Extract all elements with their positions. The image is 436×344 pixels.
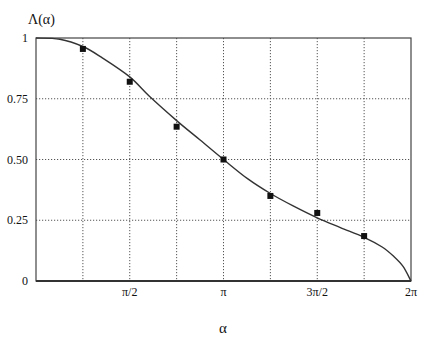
data-point-square (127, 79, 133, 85)
y-tick-labels: 00.250.500.751 (7, 31, 28, 288)
y-tick-label: 1 (22, 31, 28, 45)
chart: 00.250.500.751 π/2π3π/22π Λ(α) α (0, 0, 436, 344)
y-tick-label: 0.50 (7, 153, 28, 167)
y-tick-label: 0 (22, 274, 28, 288)
x-tick-labels: π/2π3π/22π (122, 285, 417, 299)
data-point-square (221, 157, 227, 163)
data-point-square (80, 46, 86, 52)
data-point-square (314, 210, 320, 216)
x-axis-label: α (219, 320, 227, 336)
data-point-square (361, 233, 367, 239)
x-tick-label: π/2 (122, 285, 137, 299)
y-axis-label: Λ(α) (28, 12, 55, 28)
data-point-square (267, 193, 273, 199)
data-point-square (174, 124, 180, 130)
y-tick-label: 0.75 (7, 92, 28, 106)
y-tick-label: 0.25 (7, 213, 28, 227)
x-tick-label: 3π/2 (307, 285, 328, 299)
x-tick-label: 2π (405, 285, 417, 299)
x-tick-label: π (220, 285, 226, 299)
